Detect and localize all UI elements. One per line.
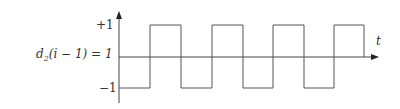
x-axis-arrow-icon (371, 54, 379, 60)
square-wave-plot (0, 0, 400, 109)
y-axis-arrow-icon (116, 11, 122, 19)
